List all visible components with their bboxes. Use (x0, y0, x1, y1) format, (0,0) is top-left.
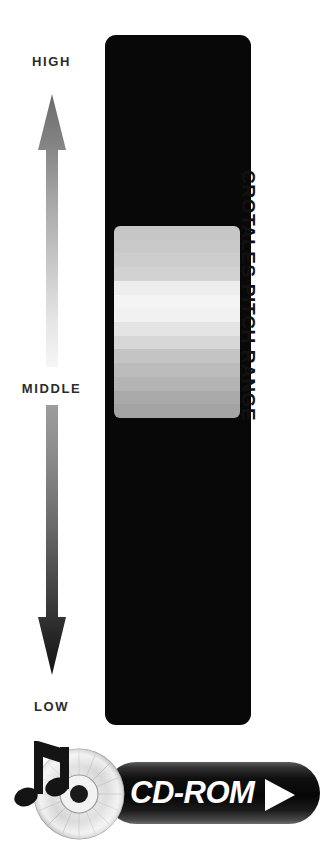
arrow-down-icon (32, 405, 72, 677)
range-band (114, 404, 240, 418)
range-band (114, 363, 240, 377)
range-band (114, 377, 240, 391)
music-note-icon (14, 737, 76, 815)
down-arrow-container (0, 405, 103, 677)
range-band (114, 391, 240, 405)
range-band (114, 308, 240, 322)
scale-label-high: HIGH (0, 55, 103, 68)
page-title: CROTALES PITCH RANGE (239, 170, 258, 421)
play-arrow-icon (262, 777, 298, 813)
cdrom-label: CD-ROM (130, 774, 280, 812)
arrow-up-icon (32, 92, 72, 367)
range-band (114, 267, 240, 281)
range-band (114, 349, 240, 363)
range-band (114, 336, 240, 350)
range-band (114, 295, 240, 309)
range-band (114, 281, 240, 295)
range-band (114, 322, 240, 336)
range-band (114, 226, 240, 240)
up-arrow-container (0, 92, 103, 367)
scale-label-middle: MIDDLE (0, 382, 103, 395)
cdrom-badge[interactable]: CD-ROM (0, 735, 326, 860)
range-band (114, 240, 240, 254)
range-band (114, 253, 240, 267)
crotales-range-bar (114, 226, 240, 418)
scale-label-low: LOW (0, 700, 103, 713)
